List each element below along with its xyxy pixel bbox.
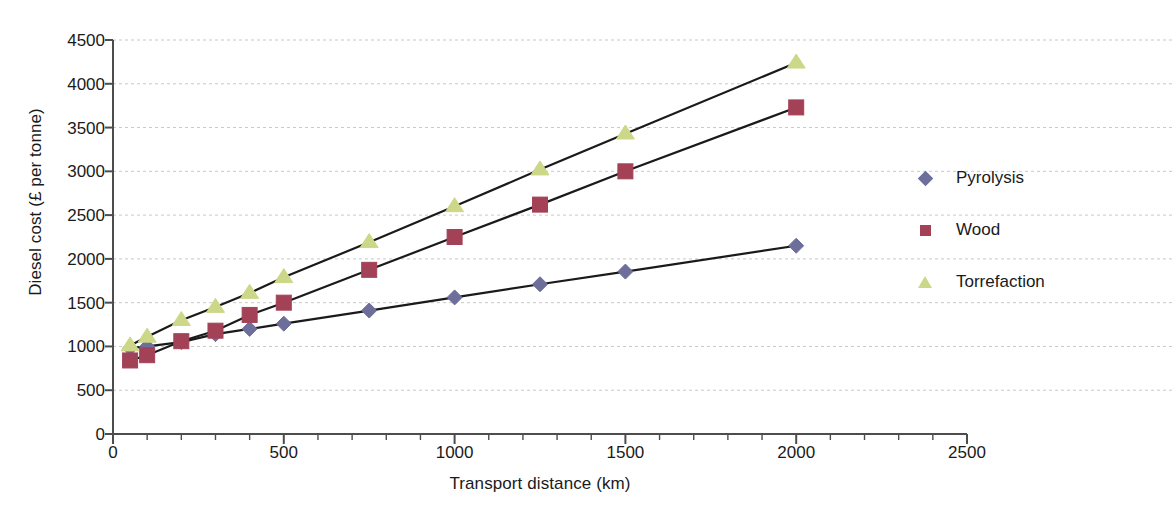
data-point-wood [242, 307, 257, 322]
series-line-pyrolysis [130, 246, 796, 348]
x-axis-tick-labels: 05001000150020002500 [0, 444, 1173, 474]
data-point-pyrolysis [242, 321, 257, 336]
chart-figure: Diesel cost (£ per tonne) 05001000150020… [0, 0, 1173, 515]
data-point-pyrolysis [618, 264, 633, 279]
legend-item-wood: Wood [912, 204, 1167, 256]
legend-label-pyrolysis: Pyrolysis [956, 168, 1024, 188]
data-point-pyrolysis [533, 277, 548, 292]
data-point-wood [447, 230, 462, 245]
data-point-torrefaction [121, 337, 139, 351]
data-point-torrefaction [787, 54, 805, 68]
legend-label-torrefaction: Torrefaction [956, 272, 1045, 292]
data-point-wood [618, 164, 633, 179]
data-point-wood [276, 295, 291, 310]
triangle-marker-icon [912, 269, 938, 295]
x-axis-title: Transport distance (km) [113, 474, 967, 494]
data-point-torrefaction [241, 284, 259, 298]
chart-legend: Pyrolysis Wood Torrefaction [912, 152, 1167, 308]
data-point-wood [174, 334, 189, 349]
data-point-wood [789, 100, 804, 115]
data-point-wood [533, 197, 548, 212]
data-point-wood [123, 353, 138, 368]
square-marker-icon [912, 217, 938, 243]
series-line-wood [130, 107, 796, 360]
legend-item-pyrolysis: Pyrolysis [912, 152, 1167, 204]
x-axis-tick-label: 500 [239, 444, 329, 461]
data-point-pyrolysis [276, 316, 291, 331]
legend-item-torrefaction: Torrefaction [912, 256, 1167, 308]
data-point-pyrolysis [362, 303, 377, 318]
diamond-marker-icon [912, 165, 938, 191]
data-point-wood [362, 262, 377, 277]
x-axis-tick-label: 2500 [922, 444, 1012, 461]
x-axis-tick-label: 2000 [751, 444, 841, 461]
x-axis-tick-label: 1000 [410, 444, 500, 461]
data-point-wood [208, 323, 223, 338]
x-axis-tick-label: 1500 [580, 444, 670, 461]
x-axis-tick-label: 0 [68, 444, 158, 461]
data-point-pyrolysis [789, 238, 804, 253]
legend-label-wood: Wood [956, 220, 1000, 240]
data-point-wood [140, 348, 155, 363]
data-point-torrefaction [138, 328, 156, 342]
